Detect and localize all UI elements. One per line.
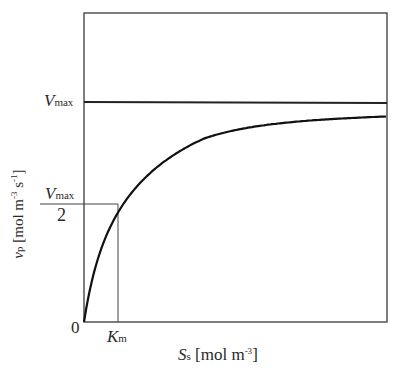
vmax-symbol: V xyxy=(45,184,55,203)
y-unit-sup2: -1 xyxy=(9,174,19,182)
y-axis-label: vp [mol m-3 s-1] xyxy=(9,134,27,294)
plot-frame xyxy=(84,13,387,322)
half-vmax-label-num: Vmax xyxy=(45,184,74,204)
origin-label: 0 xyxy=(71,318,80,338)
x-symbol: S xyxy=(178,345,187,364)
x-unit-close: ] xyxy=(252,345,258,364)
x-unit: [mol m xyxy=(195,345,245,364)
vmax-symbol: V xyxy=(44,91,54,110)
y-unit-close: ] xyxy=(10,169,26,174)
y-unit-sup1: -3 xyxy=(9,191,19,199)
y-unit-mid: s xyxy=(10,182,26,192)
half-vmax-label-denom: 2 xyxy=(57,205,66,226)
y-subscript: p xyxy=(13,246,25,252)
vmax-asymptote-line xyxy=(84,102,387,103)
vmax-subscript: max xyxy=(55,189,74,201)
y-symbol: v xyxy=(10,252,26,259)
vmax-subscript: max xyxy=(54,96,73,108)
x-subscript: s xyxy=(187,350,191,362)
michaelis-menten-curve xyxy=(84,117,386,323)
vmax-label: Vmax xyxy=(44,91,73,111)
km-subscript: m xyxy=(118,332,127,344)
km-label: Km xyxy=(107,327,127,347)
x-unit-sup: -3 xyxy=(245,346,253,356)
x-axis-label: Ss [mol m-3] xyxy=(178,345,258,365)
km-symbol: K xyxy=(107,327,118,346)
y-unit: [mol m xyxy=(10,199,26,243)
